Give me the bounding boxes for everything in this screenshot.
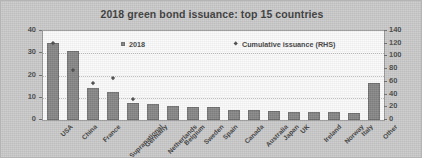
y-tick-mark-right xyxy=(384,119,387,120)
y-tick-mark-left xyxy=(39,119,42,120)
y-tick-left: 0 xyxy=(8,115,36,123)
x-tick-label: Canada xyxy=(243,123,265,145)
chart-figure: 2018 green bond issuance: top 15 countri… xyxy=(0,0,422,158)
gridline xyxy=(43,76,384,77)
chart-legend: 2018 Cumulative issuance (RHS) xyxy=(121,39,341,50)
y-tick-left: 20 xyxy=(8,71,36,79)
y-tick-mark-right xyxy=(384,106,387,107)
y-tick-mark-left xyxy=(39,52,42,53)
bar xyxy=(328,112,340,120)
chart-title: 2018 green bond issuance: top 15 countri… xyxy=(1,8,422,20)
y-tick-right: 80 xyxy=(389,64,419,72)
y-tick-right: 140 xyxy=(389,26,419,34)
x-tick-label: UK xyxy=(299,123,311,135)
y-tick-mark-left xyxy=(39,75,42,76)
bar xyxy=(228,110,240,120)
bar xyxy=(67,51,79,120)
x-tick-label: France xyxy=(101,123,121,143)
y-tick-mark-right xyxy=(384,68,387,69)
bar xyxy=(268,111,280,120)
bar xyxy=(368,83,380,120)
square-marker-icon xyxy=(121,42,125,46)
y-tick-right: 40 xyxy=(389,90,419,98)
y-tick-mark-right xyxy=(384,94,387,95)
legend-label-2018: 2018 xyxy=(129,40,145,49)
bar xyxy=(47,43,59,120)
bar xyxy=(187,107,199,120)
bar xyxy=(348,113,360,120)
bar xyxy=(167,106,179,120)
y-tick-left: 10 xyxy=(8,93,36,101)
y-tick-right: 120 xyxy=(389,39,419,47)
x-tick-label: Other xyxy=(381,123,398,140)
bar xyxy=(308,112,320,120)
y-tick-mark-right xyxy=(384,30,387,31)
x-tick-label: USA xyxy=(59,123,74,138)
y-tick-left: 30 xyxy=(8,48,36,56)
data-marker xyxy=(91,81,96,86)
y-tick-left: 40 xyxy=(8,26,36,34)
y-tick-right: 20 xyxy=(389,102,419,110)
bar xyxy=(127,103,139,120)
x-tick-label: Ireland xyxy=(322,123,342,143)
y-tick-mark-left xyxy=(39,30,42,31)
y-tick-mark-left xyxy=(39,97,42,98)
y-tick-right: 100 xyxy=(389,51,419,59)
x-tick-label: China xyxy=(80,123,98,141)
bar xyxy=(207,107,219,120)
y-tick-right: 60 xyxy=(389,77,419,85)
bar xyxy=(147,104,159,120)
y-tick-mark-right xyxy=(384,81,387,82)
bar xyxy=(87,88,99,120)
bar xyxy=(248,110,260,120)
bar xyxy=(107,92,119,120)
legend-label-cumulative: Cumulative issuance (RHS) xyxy=(242,40,335,49)
y-tick-mark-right xyxy=(384,55,387,56)
diamond-marker-icon xyxy=(233,41,238,46)
gridline xyxy=(43,53,384,54)
y-tick-mark-right xyxy=(384,43,387,44)
bar xyxy=(288,112,300,120)
